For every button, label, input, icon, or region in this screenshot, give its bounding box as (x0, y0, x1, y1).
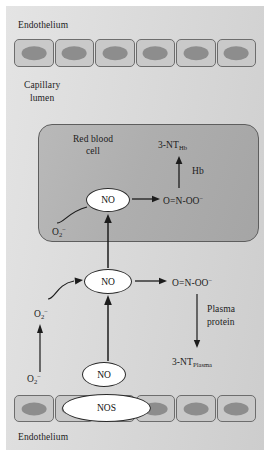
superoxide-label-plasma: O2− (34, 306, 48, 322)
endothelial-cell-nucleus (102, 46, 127, 60)
superoxide-plasma-superscript: − (44, 308, 48, 315)
endothelial-cell (95, 39, 135, 67)
endothelial-cell (14, 395, 54, 422)
no-oval-rbc-label: NO (101, 195, 115, 205)
endothelium-top-strip (6, 39, 264, 67)
nitrotyrosine-plasma-label: 3-NTPlasma (172, 357, 212, 370)
red-blood-cell-label-line1: Red blood (58, 134, 128, 145)
arrow-superoxide-to-no-plasma (46, 272, 84, 300)
endothelial-cell-nucleus (224, 46, 249, 60)
plasma-protein-label-line2: protein (207, 317, 235, 328)
arrow-to-nitrotyrosine-hb (174, 156, 184, 188)
endothelial-cell (217, 39, 257, 67)
arrow-no-to-peroxynitrite-plasma (135, 276, 167, 286)
nitrotyrosine-hb-subscript: Hb (179, 144, 187, 151)
no-oval-endothelium: NO (82, 362, 126, 387)
no-oval-plasma: NO (84, 269, 132, 294)
superoxide-rbc-superscript: − (62, 226, 66, 233)
peroxynitrite-plasma-formula: O=N-OO (172, 278, 209, 288)
nos-oval-label: NOS (97, 403, 116, 413)
capillary-lumen-label-line2: lumen (30, 93, 54, 104)
endothelial-cell (176, 395, 216, 422)
no-oval-rbc: NO (86, 188, 130, 212)
endothelial-cell (217, 395, 257, 422)
no-oval-plasma-label: NO (101, 277, 115, 287)
endothelium-bottom-label: Endothelium (18, 432, 68, 443)
arrow-plasma-no-to-rbc (103, 214, 113, 268)
nitrotyrosine-hb-base: 3-NT (158, 140, 179, 150)
endothelial-cell (136, 39, 176, 67)
nos-oval: NOS (62, 394, 151, 422)
nitrotyrosine-plasma-subscript: Plasma (193, 361, 212, 368)
superoxide-plasma-base: O (34, 309, 41, 319)
superoxide-rbc-base: O (52, 227, 59, 237)
peroxynitrite-rbc-charge: − (200, 195, 204, 202)
arrow-endothelial-no-to-plasma (103, 295, 113, 361)
endothelial-cell-nucleus (224, 402, 249, 415)
superoxide-label-rbc: O2− (52, 224, 66, 240)
peroxynitrite-rbc-formula: O=N-OO (163, 196, 200, 206)
peroxynitrite-label-plasma: O=N-OO− (172, 275, 212, 289)
endothelial-cell (14, 39, 54, 67)
endothelial-cell-nucleus (183, 46, 208, 60)
figure-panel: Endothelium Capillary lumen Red blood ce… (6, 6, 264, 450)
hemoglobin-label: Hb (192, 166, 204, 177)
superoxide-label-endothelium: O2− (27, 371, 41, 387)
endothelial-cell (176, 39, 216, 67)
endothelial-cell-nucleus (21, 46, 46, 60)
no-oval-endothelium-label: NO (97, 370, 111, 380)
peroxynitrite-plasma-charge: − (209, 277, 213, 284)
endothelial-cell-nucleus (143, 46, 168, 60)
plasma-protein-label-line1: Plasma (207, 304, 235, 315)
red-blood-cell-label-line2: cell (58, 146, 128, 157)
endothelial-cell-nucleus (62, 46, 87, 60)
superoxide-endothelium-superscript: − (37, 373, 41, 380)
peroxynitrite-label-rbc: O=N-OO− (163, 193, 203, 207)
capillary-lumen-label-line1: Capillary (24, 80, 60, 91)
superoxide-curve-rbc (56, 198, 90, 224)
nitrotyrosine-plasma-base: 3-NT (172, 357, 193, 367)
endothelial-cell (55, 39, 95, 67)
superoxide-endothelium-base: O (27, 374, 34, 384)
arrow-peroxynitrite-to-nitrotyrosine-plasma (192, 294, 202, 348)
nitrotyrosine-hb-label: 3-NTHb (158, 140, 187, 153)
endothelium-top-label: Endothelium (18, 20, 68, 31)
arrow-superoxide-rise-plasma (35, 324, 45, 372)
endothelial-cell-nucleus (183, 402, 208, 415)
endothelial-cell-nucleus (21, 402, 46, 415)
arrow-no-to-peroxynitrite-rbc (132, 194, 160, 204)
